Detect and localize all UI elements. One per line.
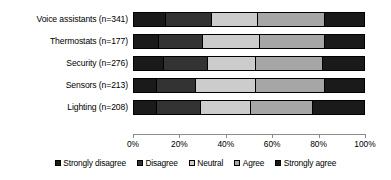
chart-row: Security (n=276): [0, 52, 391, 74]
x-axis-tick-label: 80%: [299, 139, 339, 149]
bar-segment-agree: [251, 101, 313, 114]
bar-segment-strongly-agree: [313, 101, 364, 114]
chart-row: Sensors (n=213): [0, 74, 391, 96]
bar-segment-neutral: [208, 57, 256, 70]
stacked-bar: [133, 34, 365, 49]
bar-segment-strongly-agree: [325, 79, 364, 92]
bar-segment-agree: [256, 57, 323, 70]
x-axis-line: [133, 134, 365, 135]
legend-label: Disagree: [145, 158, 177, 168]
bar-segment-neutral: [201, 101, 252, 114]
category-label: Voice assistants (n=341): [0, 8, 128, 30]
stacked-bar: [133, 56, 365, 71]
chart-legend: Strongly disagreeDisagreeNeutralAgreeStr…: [0, 158, 391, 168]
bar-segment-disagree: [157, 101, 201, 114]
legend-item: Strongly disagree: [55, 158, 126, 168]
bar-segment-agree: [258, 13, 325, 26]
bar-segment-neutral: [212, 13, 258, 26]
category-label: Thermostats (n=177): [0, 30, 128, 52]
bar-segment-strongly-agree: [325, 13, 364, 26]
x-axis-tick-label: 100%: [345, 139, 385, 149]
x-axis-tick: [179, 134, 180, 138]
bar-segment-agree: [256, 79, 325, 92]
bar-segment-strongly-agree: [323, 57, 364, 70]
legend-label: Agree: [243, 158, 265, 168]
bar-segment-disagree: [166, 13, 212, 26]
x-axis-tick: [319, 134, 320, 138]
legend-item: Disagree: [137, 158, 178, 168]
category-label: Sensors (n=213): [0, 74, 128, 96]
legend-swatch-icon: [137, 160, 143, 166]
legend-item: Strongly agree: [275, 158, 336, 168]
chart-row: Lighting (n=208): [0, 96, 391, 118]
legend-swatch-icon: [55, 160, 61, 166]
chart-row: Thermostats (n=177): [0, 30, 391, 52]
bar-segment-strongly-agree: [325, 35, 364, 48]
category-label: Lighting (n=208): [0, 96, 128, 118]
legend-item: Neutral: [189, 158, 223, 168]
x-axis-tick-label: 20%: [159, 139, 199, 149]
bar-segment-disagree: [164, 57, 208, 70]
legend-label: Strongly agree: [284, 158, 336, 168]
bar-segment-strongly-disagree: [134, 35, 159, 48]
legend-label: Strongly disagree: [63, 158, 126, 168]
x-axis-tick-label: 0%: [113, 139, 153, 149]
bar-segment-disagree: [159, 35, 203, 48]
stacked-bar: [133, 12, 365, 27]
x-axis-tick: [272, 134, 273, 138]
plot-area: Voice assistants (n=341)Thermostats (n=1…: [0, 8, 391, 134]
bar-segment-disagree: [157, 79, 196, 92]
bar-segment-neutral: [203, 35, 261, 48]
legend-label: Neutral: [197, 158, 223, 168]
x-axis-tick-label: 40%: [206, 139, 246, 149]
x-axis-tick: [365, 134, 366, 138]
x-axis-tick: [226, 134, 227, 138]
legend-swatch-icon: [234, 160, 240, 166]
stacked-bar: [133, 100, 365, 115]
bar-segment-strongly-disagree: [134, 13, 166, 26]
bar-segment-strongly-disagree: [134, 79, 157, 92]
category-label: Security (n=276): [0, 52, 128, 74]
x-axis-tick: [133, 134, 134, 138]
bar-segment-strongly-disagree: [134, 57, 164, 70]
bar-segment-agree: [260, 35, 324, 48]
legend-swatch-icon: [189, 160, 195, 166]
stacked-bar: [133, 78, 365, 93]
x-axis-tick-label: 60%: [252, 139, 292, 149]
legend-item: Agree: [234, 158, 264, 168]
chart-row: Voice assistants (n=341): [0, 8, 391, 30]
bar-segment-neutral: [196, 79, 256, 92]
bar-segment-strongly-disagree: [134, 101, 157, 114]
legend-swatch-icon: [275, 160, 281, 166]
likert-stacked-bar-chart: Voice assistants (n=341)Thermostats (n=1…: [0, 0, 391, 180]
